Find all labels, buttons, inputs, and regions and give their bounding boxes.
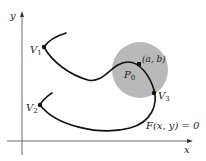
x-axis-arrow-icon [187, 139, 193, 143]
v1-label: V1 [30, 44, 42, 57]
equation-label: F(x, y) = 0 [145, 120, 200, 131]
y-axis-label: y [9, 10, 16, 21]
v3-label: V3 [158, 90, 170, 103]
y-axis [20, 11, 24, 155]
x-axis [7, 139, 193, 143]
y-axis-arrow-icon [20, 11, 24, 17]
curve-diagram: y x V1 V2 V3 P0 (a, b) F(x, y) = 0 [0, 0, 206, 161]
point-v3 [152, 91, 156, 95]
v2-label: V2 [26, 102, 38, 115]
point-v2 [38, 103, 42, 107]
point-p0 [137, 62, 141, 66]
ab-label: (a, b) [142, 54, 166, 64]
x-axis-label: x [184, 144, 190, 155]
point-v1 [42, 45, 46, 49]
